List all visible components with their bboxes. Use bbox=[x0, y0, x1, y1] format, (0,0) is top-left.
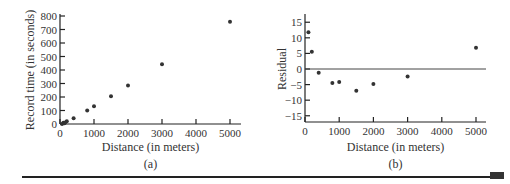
panel-label: (b) bbox=[389, 157, 403, 171]
y-tick-label: 800 bbox=[41, 10, 58, 22]
chart-panel-a: 0100200300400500600700800010002000300040… bbox=[23, 10, 242, 171]
data-point bbox=[126, 84, 130, 88]
data-point bbox=[330, 81, 334, 85]
bottom-rule bbox=[22, 176, 490, 178]
x-tick-label: 1000 bbox=[83, 127, 106, 139]
data-point bbox=[371, 82, 375, 86]
y-tick-label: −15 bbox=[285, 110, 303, 122]
y-tick-label: 200 bbox=[41, 91, 58, 103]
figure: 0100200300400500600700800010002000300040… bbox=[0, 0, 510, 184]
x-tick-label: 4000 bbox=[185, 127, 208, 139]
panel-label: (a) bbox=[144, 157, 157, 171]
data-point bbox=[354, 89, 358, 93]
y-axis-label: Record time (in seconds) bbox=[23, 10, 37, 130]
x-tick-label: 3000 bbox=[397, 125, 420, 137]
y-tick-label: 500 bbox=[41, 51, 58, 63]
data-point bbox=[474, 46, 478, 50]
data-point bbox=[317, 71, 321, 75]
y-tick-label: 10 bbox=[291, 32, 303, 44]
y-tick-label: 700 bbox=[41, 24, 58, 36]
data-point bbox=[306, 30, 310, 34]
x-tick-label: 0 bbox=[57, 127, 63, 139]
x-tick-label: 1000 bbox=[328, 125, 351, 137]
data-point bbox=[85, 109, 89, 113]
y-tick-label: 300 bbox=[41, 78, 58, 90]
x-tick-label: 3000 bbox=[151, 127, 174, 139]
x-tick-label: 5000 bbox=[465, 125, 488, 137]
data-point bbox=[228, 20, 232, 24]
y-axis-label: Residual bbox=[275, 47, 289, 90]
y-tick-label: 15 bbox=[291, 16, 303, 28]
y-tick-label: 400 bbox=[41, 64, 58, 76]
data-point bbox=[406, 74, 410, 78]
chart-panel-b: 151050−5−10−15010002000300040005000Dista… bbox=[275, 14, 488, 171]
y-tick-label: 100 bbox=[41, 105, 58, 117]
y-tick-label: −5 bbox=[290, 79, 302, 91]
x-tick-label: 4000 bbox=[431, 125, 454, 137]
data-point bbox=[160, 62, 164, 66]
x-axis-label: Distance (in meters) bbox=[347, 140, 444, 154]
y-tick-label: 5 bbox=[297, 47, 303, 59]
x-tick-label: 5000 bbox=[219, 127, 242, 139]
x-tick-label: 0 bbox=[302, 125, 308, 137]
data-point bbox=[109, 94, 113, 98]
data-point bbox=[63, 120, 67, 124]
x-tick-label: 2000 bbox=[362, 125, 385, 137]
x-tick-label: 2000 bbox=[117, 127, 140, 139]
x-axis-label: Distance (in meters) bbox=[102, 140, 199, 154]
y-tick-label: 600 bbox=[41, 37, 58, 49]
page-tab-marker bbox=[490, 172, 504, 179]
data-point bbox=[310, 50, 314, 54]
y-tick-label: 0 bbox=[297, 63, 303, 75]
data-point bbox=[92, 104, 96, 108]
y-tick-label: −10 bbox=[285, 94, 303, 106]
data-point bbox=[72, 116, 76, 120]
data-point bbox=[337, 80, 341, 84]
